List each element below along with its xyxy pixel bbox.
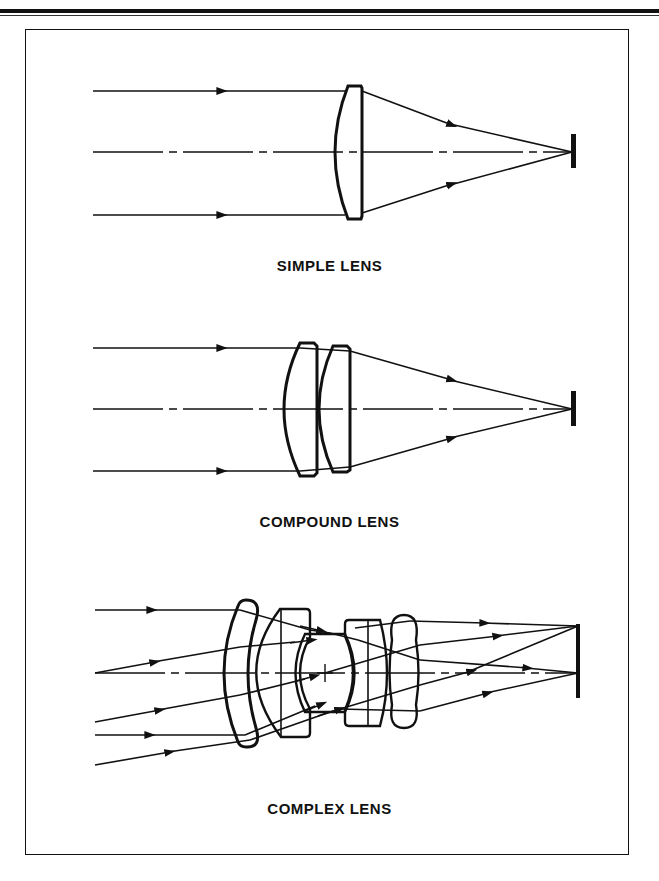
ray	[350, 438, 452, 467]
complex-lens-panel	[95, 600, 580, 765]
simple-lens-panel	[93, 86, 576, 219]
ray	[95, 710, 160, 722]
ray	[362, 91, 452, 125]
ray	[296, 676, 315, 681]
image-plane	[571, 134, 576, 168]
image-plane	[571, 391, 576, 426]
ray	[362, 184, 452, 213]
ray	[410, 621, 485, 623]
lens-diagram	[0, 0, 659, 881]
image-plane	[576, 624, 580, 698]
caption-complex-lens: COMPLEX LENS	[0, 800, 659, 817]
ray	[95, 662, 155, 673]
ray	[420, 636, 498, 645]
ray	[420, 660, 528, 668]
caption-compound-lens: COMPOUND LENS	[0, 513, 659, 530]
ray	[350, 351, 452, 380]
ray	[95, 752, 170, 765]
ray	[420, 693, 488, 711]
compound-lens-panel	[93, 343, 576, 476]
caption-simple-lens: SIMPLE LENS	[0, 257, 659, 274]
